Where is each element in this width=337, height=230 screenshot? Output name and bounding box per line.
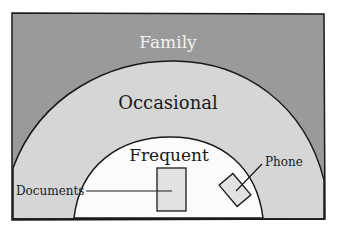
occasional-label: Occasional — [118, 92, 218, 113]
family-label: Family — [139, 32, 197, 52]
documents-shape — [157, 168, 186, 211]
documents-label: Documents — [16, 184, 84, 198]
proximity-zones-diagram: Family Occasional Frequent Documents Pho… — [0, 0, 337, 230]
phone-label: Phone — [265, 155, 303, 169]
frequent-label: Frequent — [129, 145, 209, 165]
